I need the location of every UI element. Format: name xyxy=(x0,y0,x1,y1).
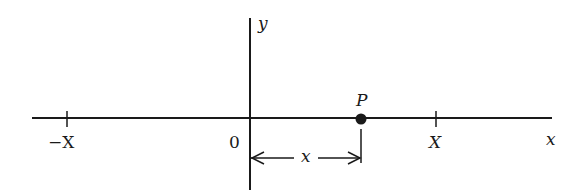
point-p-marker xyxy=(356,114,367,125)
origin-label: 0 xyxy=(229,134,240,151)
number-line-diagram: y −X X 0 P x x xyxy=(0,0,585,195)
diagram-canvas xyxy=(0,0,585,195)
measurement-label: x xyxy=(301,148,311,165)
tick-label-neg-x: −X xyxy=(48,134,74,151)
tick-label-pos-x: X xyxy=(429,134,441,151)
x-axis-label: x xyxy=(546,131,556,148)
y-axis-label: y xyxy=(258,15,268,32)
point-p-label: P xyxy=(356,92,367,109)
